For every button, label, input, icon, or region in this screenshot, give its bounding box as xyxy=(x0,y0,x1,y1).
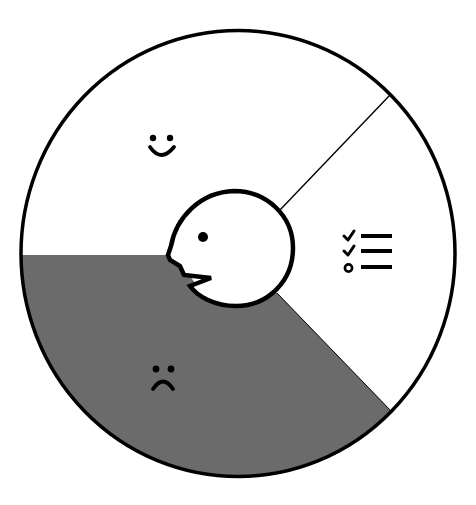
checklist-icon xyxy=(344,231,392,272)
eye-dot xyxy=(198,232,208,242)
